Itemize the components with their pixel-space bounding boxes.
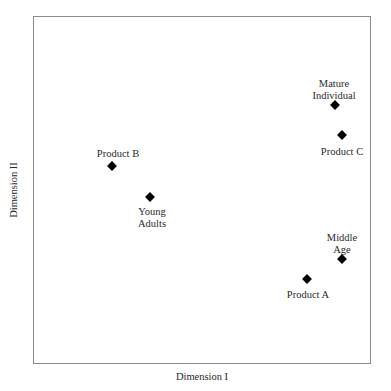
- y-axis-label: Dimension II: [8, 162, 19, 218]
- label-young-adults: Young Adults: [138, 206, 166, 230]
- plot-area: [33, 16, 371, 364]
- label-middle-age: Middle Age: [327, 232, 357, 256]
- label-product-c: Product C: [321, 146, 363, 158]
- label-mature-individual: Mature Individual: [312, 78, 355, 102]
- x-axis-label: Dimension I: [176, 371, 228, 382]
- label-product-b: Product B: [97, 148, 139, 160]
- label-product-a: Product A: [287, 289, 329, 301]
